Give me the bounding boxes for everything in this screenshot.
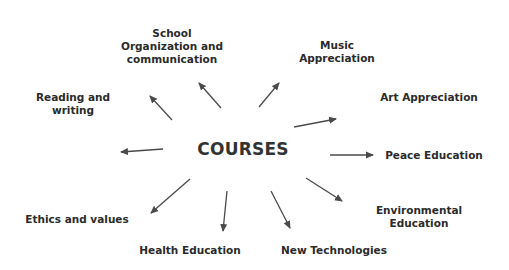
node-art: Art Appreciation (380, 91, 478, 104)
node-school: SchoolOrganization andcommunication (121, 27, 223, 66)
node-label-line: Ethics and values (25, 213, 129, 226)
arrow-to-health (223, 191, 227, 231)
node-label-line: Music (299, 39, 375, 52)
node-reading: Reading andwriting (36, 91, 110, 117)
node-label-line: Education (376, 217, 462, 230)
node-label-line: Art Appreciation (380, 91, 478, 104)
arrow-to-newtech (271, 191, 290, 228)
node-label-line: communication (121, 53, 223, 66)
node-environmental: EnvironmentalEducation (376, 204, 462, 230)
arrow-to-left-blank (121, 149, 163, 152)
node-label-line: Health Education (139, 244, 241, 257)
arrow-to-music (259, 83, 279, 107)
node-label-line: writing (36, 104, 110, 117)
arrow-to-art (294, 119, 336, 127)
arrow-to-reading (150, 96, 172, 120)
node-peace: Peace Education (385, 149, 483, 162)
arrow-to-ethics (151, 179, 190, 213)
node-newtech: New Technologies (281, 244, 387, 257)
node-label-line: New Technologies (281, 244, 387, 257)
node-label-line: Environmental (376, 204, 462, 217)
arrow-to-environmental (306, 178, 342, 201)
node-label-line: Peace Education (385, 149, 483, 162)
node-label-line: Appreciation (299, 52, 375, 65)
arrow-to-school (199, 83, 221, 108)
center-node-courses: COURSES (197, 139, 288, 159)
courses-diagram: COURSES SchoolOrganization andcommunicat… (0, 0, 509, 270)
node-music: MusicAppreciation (299, 39, 375, 65)
node-health: Health Education (139, 244, 241, 257)
node-ethics: Ethics and values (25, 213, 129, 226)
node-label-line: Reading and (36, 91, 110, 104)
node-label-line: Organization and (121, 40, 223, 53)
node-label-line: School (121, 27, 223, 40)
